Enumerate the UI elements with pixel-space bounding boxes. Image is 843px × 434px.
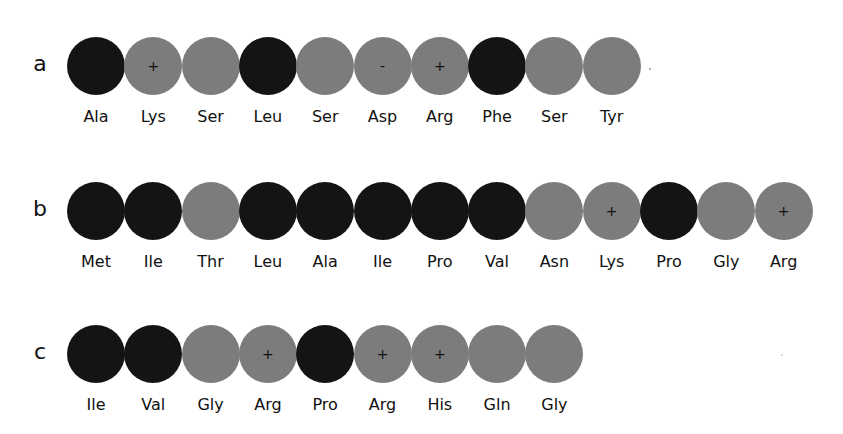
residue: Met xyxy=(67,182,125,240)
residue: Ala xyxy=(296,182,354,240)
hydrophobic-residue-circle xyxy=(124,182,182,240)
residue: Pro xyxy=(640,182,698,240)
polar-residue-circle: + xyxy=(239,325,297,383)
residue: +Arg xyxy=(354,325,412,383)
residue: Gln xyxy=(468,325,526,383)
residue: Gly xyxy=(697,182,755,240)
row-label-a: a xyxy=(30,51,50,76)
residue-name: Arg xyxy=(745,252,823,271)
polar-residue-circle xyxy=(182,325,240,383)
residue: Ile xyxy=(67,325,125,383)
polar-residue-circle: + xyxy=(124,37,182,95)
residue: +His xyxy=(411,325,469,383)
residue: Thr xyxy=(182,182,240,240)
stray-dot xyxy=(781,354,783,356)
residue: Leu xyxy=(239,37,297,95)
residue: Ser xyxy=(296,37,354,95)
row-label-c: c xyxy=(30,339,50,364)
residue: Ser xyxy=(182,37,240,95)
stray-dot xyxy=(649,68,651,70)
hydrophobic-residue-circle xyxy=(640,182,698,240)
residue: Pro xyxy=(296,325,354,383)
residue-name: Gly xyxy=(515,395,593,414)
residue: Gly xyxy=(525,325,583,383)
hydrophobic-residue-circle xyxy=(468,182,526,240)
polar-residue-circle: + xyxy=(411,37,469,95)
polar-residue-circle xyxy=(296,37,354,95)
polar-residue-circle xyxy=(525,37,583,95)
residue: Ser xyxy=(525,37,583,95)
residue: Ile xyxy=(124,182,182,240)
hydrophobic-residue-circle xyxy=(67,325,125,383)
residue: +Arg xyxy=(411,37,469,95)
residue: +Lys xyxy=(124,37,182,95)
residue: +Lys xyxy=(583,182,641,240)
polar-residue-circle: + xyxy=(755,182,813,240)
residue: +Arg xyxy=(755,182,813,240)
hydrophobic-residue-circle xyxy=(239,37,297,95)
residue: Phe xyxy=(468,37,526,95)
polar-residue-circle xyxy=(697,182,755,240)
polar-residue-circle: + xyxy=(583,182,641,240)
hydrophobic-residue-circle xyxy=(296,182,354,240)
hydrophobic-residue-circle xyxy=(354,182,412,240)
hydrophobic-residue-circle xyxy=(67,37,125,95)
hydrophobic-residue-circle xyxy=(296,325,354,383)
polar-residue-circle xyxy=(525,182,583,240)
polar-residue-circle xyxy=(525,325,583,383)
residue: Gly xyxy=(182,325,240,383)
polar-residue-circle: + xyxy=(354,325,412,383)
hydrophobic-residue-circle xyxy=(124,325,182,383)
polar-residue-circle xyxy=(468,325,526,383)
residue: Tyr xyxy=(583,37,641,95)
residue: Val xyxy=(124,325,182,383)
polar-residue-circle xyxy=(182,37,240,95)
polar-residue-circle xyxy=(182,182,240,240)
residue: Pro xyxy=(411,182,469,240)
residue-name: Tyr xyxy=(573,107,651,126)
polar-residue-circle: - xyxy=(354,37,412,95)
hydrophobic-residue-circle xyxy=(468,37,526,95)
residue: Ile xyxy=(354,182,412,240)
hydrophobic-residue-circle xyxy=(411,182,469,240)
hydrophobic-residue-circle xyxy=(239,182,297,240)
polar-residue-circle: + xyxy=(411,325,469,383)
residue: Ala xyxy=(67,37,125,95)
polar-residue-circle xyxy=(583,37,641,95)
row-label-b: b xyxy=(30,196,50,221)
residue: Val xyxy=(468,182,526,240)
residue: Leu xyxy=(239,182,297,240)
residue: Asn xyxy=(525,182,583,240)
residue: +Arg xyxy=(239,325,297,383)
residue: -Asp xyxy=(354,37,412,95)
hydrophobic-residue-circle xyxy=(67,182,125,240)
